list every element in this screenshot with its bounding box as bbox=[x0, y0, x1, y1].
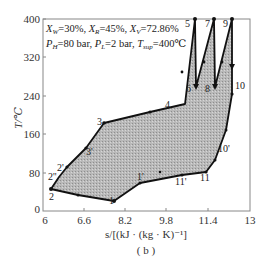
y-axis-title: T/℃ bbox=[12, 107, 24, 129]
point-label-3p: 3' bbox=[86, 146, 93, 157]
point-label-2: 2 bbox=[49, 191, 54, 202]
x-tick-6.6: 6.6 bbox=[77, 214, 91, 226]
point-label-1: 1 bbox=[109, 195, 114, 206]
x-tick-11.4: 11.4 bbox=[199, 214, 218, 226]
y-tick-240: 240 bbox=[24, 90, 41, 102]
annotation-conditions: PH=80 bar, PL=2 bar, Tsup=400℃ bbox=[45, 38, 186, 51]
point-label-2pp: 2'' bbox=[48, 171, 57, 182]
y-tick-400: 400 bbox=[24, 13, 41, 25]
point-label-10p: 10' bbox=[218, 143, 230, 154]
x-tick-9.8: 9.8 bbox=[159, 214, 173, 226]
x-axis-title: s/[(kJ · (kg · K)⁻¹] bbox=[105, 228, 187, 241]
point-label-2p: 2' bbox=[57, 162, 64, 173]
point-label-5: 5 bbox=[185, 18, 190, 29]
x-tick-6: 6 bbox=[42, 214, 48, 226]
point-label-10: 10 bbox=[235, 80, 245, 91]
x-tick-8.2: 8.2 bbox=[118, 214, 132, 226]
point-label-8: 8 bbox=[205, 83, 210, 94]
point-label-1p: 1' bbox=[137, 171, 144, 182]
y-tick-160: 160 bbox=[24, 128, 41, 140]
y-tick-320: 320 bbox=[24, 51, 41, 63]
point-label-4: 4 bbox=[165, 99, 170, 110]
point-label-11: 11 bbox=[200, 172, 210, 183]
point-label-6: 6 bbox=[186, 83, 191, 94]
y-tick-80: 80 bbox=[29, 167, 41, 179]
point-label-3: 3 bbox=[97, 116, 102, 127]
point-label-9: 9 bbox=[223, 18, 228, 29]
figure-caption: ( b ) bbox=[137, 244, 156, 257]
annotation-compositions: XW=30%, XR=45%, XV=72.86% bbox=[45, 23, 179, 36]
point-label-11p: 11' bbox=[175, 176, 187, 187]
x-tick-13: 13 bbox=[245, 214, 257, 226]
ts-diagram-chart: 400 320 240 160 80 0 6 6.6 8.2 9.8 11.4 … bbox=[0, 0, 266, 262]
point-label-7: 7 bbox=[205, 18, 210, 29]
y-tick-0: 0 bbox=[35, 203, 41, 215]
